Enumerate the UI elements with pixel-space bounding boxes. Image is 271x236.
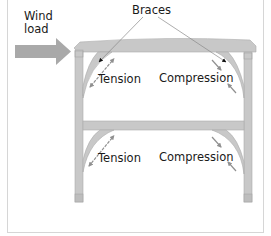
braces-label: Braces: [132, 3, 171, 17]
upper-tension-label: Tension: [97, 72, 141, 86]
middle-beam: [83, 121, 244, 130]
left-post: [75, 50, 83, 202]
wind-arrow-icon: [15, 38, 71, 65]
lower-compression-label: Compression: [159, 150, 234, 164]
wind-label-line2: load: [24, 22, 49, 36]
wind-label-line1: Wind: [24, 9, 53, 23]
upper-compression-label: Compression: [159, 71, 234, 85]
right-post: [244, 52, 252, 202]
timber-frame-diagram: Wind load Braces Tension Compression Ten…: [0, 0, 271, 236]
lower-tension-label: Tension: [97, 151, 141, 165]
roof-beam: [74, 38, 256, 52]
